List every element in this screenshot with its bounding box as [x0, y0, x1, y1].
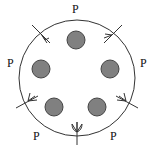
- fork-icon: [116, 93, 138, 108]
- dot: [45, 98, 63, 116]
- label-top: P: [72, 3, 79, 15]
- label-left: P: [7, 57, 14, 69]
- dot: [67, 31, 85, 49]
- dot: [101, 60, 119, 78]
- label-right: P: [140, 57, 147, 69]
- label-bottom-left: P: [33, 130, 40, 142]
- dots: [32, 31, 119, 116]
- dot: [88, 98, 106, 116]
- fork-icon: [72, 122, 82, 145]
- dot: [32, 60, 50, 78]
- label-bottom-right: P: [110, 130, 117, 142]
- fork-icon: [16, 93, 38, 108]
- diagram-canvas: [0, 0, 156, 154]
